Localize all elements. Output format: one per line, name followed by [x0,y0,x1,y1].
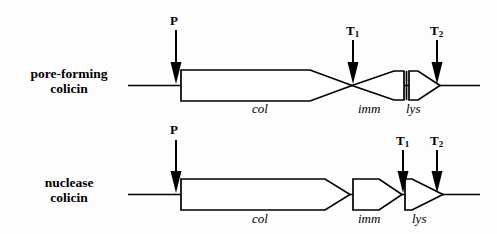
site-label-t1-bottom: T1 [396,133,409,149]
site-label-t2-top-base: T [430,23,439,38]
site-label-t2-bottom-sub: 2 [439,139,444,149]
gene-label-lys-top: lys [406,101,420,117]
site-arrow-t1-top [348,40,359,84]
row-label-pore-forming-line2: colicin [14,81,124,96]
site-label-t2-bottom: T2 [430,133,443,149]
row-label-nuclease-line1: nuclease [45,175,94,190]
gene-label-imm-bottom: imm [358,211,380,227]
row-label-nuclease-line2: colicin [14,190,124,205]
site-arrow-p-top [171,30,182,84]
site-label-t1-top-base: T [346,23,355,38]
gene-imm-bottom [353,179,402,210]
site-label-t2-bottom-base: T [430,133,439,148]
site-label-t2-top-sub: 2 [439,29,444,39]
gene-label-col-top: col [252,101,268,117]
site-label-t2-top: T2 [430,23,443,39]
gene-label-lys-bottom: lys [412,211,426,227]
site-label-t1-top-sub: 1 [355,29,360,39]
gene-label-col-bottom: col [252,211,268,227]
site-label-p-top: P [170,13,178,29]
row-label-pore-forming: pore-forming colicin [14,66,124,96]
site-arrow-p-bottom [171,140,182,193]
gene-label-imm-top: imm [358,101,380,117]
site-label-p-bottom: P [170,122,178,138]
row-label-nuclease: nuclease colicin [14,175,124,205]
row-nuclease [128,140,480,210]
gene-col-top [181,70,352,101]
site-label-t1-bottom-base: T [396,133,405,148]
row-label-pore-forming-line1: pore-forming [31,66,108,81]
site-label-t1-bottom-sub: 1 [405,139,410,149]
site-arrow-t2-top [432,40,443,84]
site-arrow-t2-bottom [432,150,443,193]
row-pore-forming [128,30,480,101]
site-label-t1-top: T1 [346,23,359,39]
gene-col-bottom [181,179,350,210]
gene-imm-top [352,71,404,100]
gene-cluster-figure: pore-forming colicin nuclease colicin P … [0,0,497,234]
